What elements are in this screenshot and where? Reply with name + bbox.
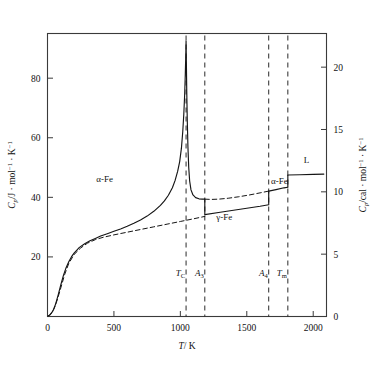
x-tick-label: 0 xyxy=(45,323,50,333)
region-label-alpha-Fe-low: α-Fe xyxy=(96,174,113,184)
transition-label-T_C: TC xyxy=(176,268,186,279)
y-axis-title-right: Cp/cal · mol−1 · K−1 xyxy=(357,138,369,213)
x-tick-label: 1500 xyxy=(237,323,256,333)
x-tick-label: 500 xyxy=(107,323,122,333)
curve-Cp-delta-ferrite xyxy=(269,187,288,191)
transition-label-A_3: A3 xyxy=(194,268,205,279)
x-tick-label: 1000 xyxy=(171,323,190,333)
curve-Cp-lattice-baseline xyxy=(48,216,205,315)
curve-Cp-gamma-austenite xyxy=(205,205,269,215)
y-tick-label-left: 60 xyxy=(31,133,41,143)
y-tick-label-left: 40 xyxy=(31,193,41,203)
region-label-liquid: L xyxy=(304,155,310,165)
y-tick-label-right: 0 xyxy=(334,312,339,322)
transition-label-A_4: A4 xyxy=(258,268,269,279)
region-label-alpha-Fe-high: α-Fe xyxy=(271,176,288,186)
y-axis-title-left: Cp/J · mol−1 · K−1 xyxy=(6,141,18,209)
curve-Cp-alpha-extrapolated-dashed xyxy=(205,191,269,199)
y-tick-label-right: 20 xyxy=(334,63,344,73)
y-tick-label-left: 80 xyxy=(31,74,41,84)
region-label-gamma-Fe: γ-Fe xyxy=(215,212,232,222)
y-tick-label-right: 10 xyxy=(334,187,344,197)
cp-vs-temperature-chart: 05001000150020002040608005101520 TCA3A4T… xyxy=(0,0,379,388)
y-tick-label-left: 20 xyxy=(31,252,41,262)
axis-titles: Cp/J · mol−1 · K−1Cp/cal · mol−1 · K−1T/… xyxy=(6,138,369,351)
y-tick-label-right: 15 xyxy=(334,125,344,135)
figure-container: 05001000150020002040608005101520 TCA3A4T… xyxy=(0,0,379,388)
transition-label-T_m: Tm xyxy=(277,268,288,279)
y-tick-label-right: 5 xyxy=(334,250,339,260)
curve-Cp-liquid xyxy=(288,174,324,175)
x-tick-label: 2000 xyxy=(304,323,323,333)
x-axis-title: T/ K xyxy=(178,341,195,351)
